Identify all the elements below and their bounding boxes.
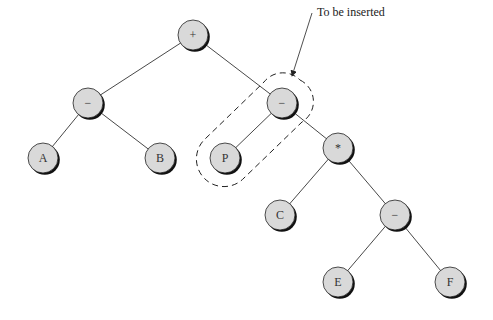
- node-label: −: [392, 208, 399, 222]
- node-E: E: [323, 267, 355, 299]
- node-label: −: [279, 96, 286, 110]
- node-label: E: [334, 275, 341, 289]
- node-label: C: [276, 208, 284, 222]
- node-A: A: [28, 143, 60, 175]
- node-label: *: [335, 141, 341, 155]
- node-F: F: [435, 267, 467, 299]
- node-label: B: [156, 151, 164, 165]
- node-C: C: [265, 200, 297, 232]
- node-label: +: [190, 28, 197, 42]
- annotation-arrow: [292, 13, 312, 76]
- tree-nodes: +−−ABP*C−EF: [28, 20, 467, 299]
- node-label: A: [39, 151, 48, 165]
- expression-tree-diagram: To be inserted +−−ABP*C−EF: [0, 0, 493, 320]
- to-be-inserted-annotation: To be inserted: [292, 5, 385, 76]
- node-minus2: −: [267, 88, 299, 120]
- node-P: P: [210, 143, 242, 175]
- node-label: F: [447, 275, 454, 289]
- node-label: P: [222, 151, 229, 165]
- tree-edges: [43, 35, 450, 282]
- annotation-label: To be inserted: [317, 5, 385, 19]
- node-label: −: [85, 96, 92, 110]
- edge-plus-minus1: [88, 35, 193, 103]
- node-B: B: [145, 143, 177, 175]
- node-plus: +: [178, 20, 210, 52]
